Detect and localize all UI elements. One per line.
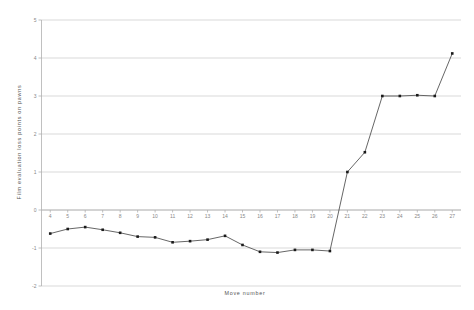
x-tick-label: 25 (415, 213, 421, 219)
data-point-marker (154, 236, 157, 239)
data-point-marker (119, 232, 122, 235)
x-tick-label: 7 (101, 213, 104, 219)
y-tick-labels: -2-1012345 (32, 17, 37, 289)
x-tick-labels: 4567891011121314151617181920212223242526… (49, 213, 455, 219)
data-point-marker (101, 228, 104, 231)
x-tick-label: 21 (345, 213, 351, 219)
x-tick-label: 13 (205, 213, 211, 219)
x-tick-label: 18 (292, 213, 298, 219)
data-point-marker (346, 171, 349, 174)
x-tick-label: 23 (380, 213, 386, 219)
x-tick-label: 16 (257, 213, 263, 219)
data-point-marker (66, 228, 69, 231)
x-tick-label: 6 (84, 213, 87, 219)
data-point-marker (189, 240, 192, 243)
x-tick-label: 9 (136, 213, 139, 219)
data-point-marker (49, 232, 52, 235)
data-point-marker (171, 241, 174, 244)
y-tick-label: 4 (34, 55, 37, 61)
y-tick-label: 3 (34, 93, 37, 99)
data-point-marker (259, 251, 262, 254)
x-axis-title: Move number (224, 290, 265, 296)
y-tick-label: 2 (34, 131, 37, 137)
x-tick-label: 22 (362, 213, 368, 219)
series-line (50, 53, 452, 252)
x-tick-label: 17 (275, 213, 281, 219)
y-tick-label: 5 (34, 17, 37, 23)
y-tick-label: -1 (32, 245, 37, 251)
x-tick-label: 12 (187, 213, 193, 219)
y-axis-title: Film evaluation loss points on pawns (16, 85, 22, 200)
x-tick-label: 8 (119, 213, 122, 219)
data-point-marker (224, 235, 227, 238)
x-tick-label: 27 (449, 213, 455, 219)
gridlines (42, 20, 462, 286)
data-point-marker (416, 94, 419, 97)
data-point-marker (329, 250, 332, 253)
data-point-marker (136, 235, 139, 238)
x-tick-label: 11 (170, 213, 175, 219)
x-tick-label: 20 (327, 213, 333, 219)
data-point-marker (381, 95, 384, 98)
chart-container: -2-1012345 45678910111213141516171819202… (0, 0, 474, 310)
x-tick-label: 26 (432, 213, 438, 219)
x-tick-label: 24 (397, 213, 403, 219)
data-point-marker (433, 95, 436, 98)
data-series (49, 52, 454, 254)
y-axis (39, 20, 42, 286)
x-tick-label: 5 (66, 213, 69, 219)
line-chart: -2-1012345 45678910111213141516171819202… (0, 0, 474, 310)
x-tick-label: 10 (152, 213, 158, 219)
x-tick-label: 14 (222, 213, 228, 219)
data-point-marker (241, 244, 244, 247)
data-point-marker (451, 52, 454, 55)
x-tick-label: 15 (240, 213, 246, 219)
data-point-marker (84, 226, 87, 229)
data-point-marker (206, 238, 209, 241)
data-point-marker (399, 95, 402, 98)
data-point-marker (276, 251, 279, 254)
data-point-marker (311, 249, 314, 252)
data-point-marker (364, 151, 367, 154)
data-point-marker (294, 249, 297, 252)
x-tick-label: 19 (310, 213, 316, 219)
y-tick-label: -2 (32, 283, 37, 289)
x-tick-label: 4 (49, 213, 52, 219)
y-tick-label: 0 (34, 207, 37, 213)
y-tick-label: 1 (34, 169, 37, 175)
